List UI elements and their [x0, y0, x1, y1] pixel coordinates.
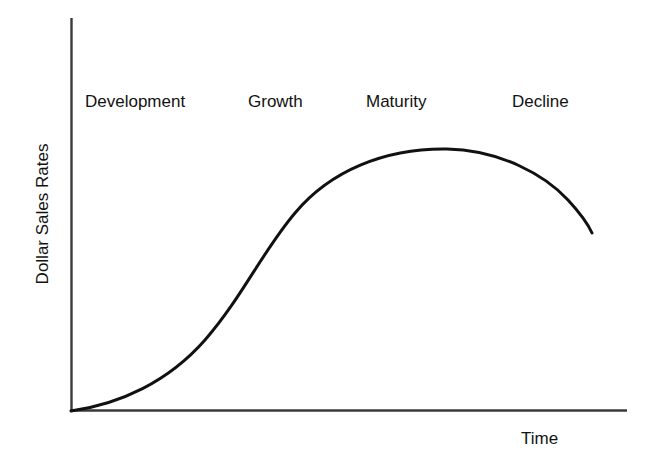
stage-label-maturity: Maturity	[366, 92, 426, 112]
chart-plot-area	[0, 0, 658, 473]
x-axis-label: Time	[521, 428, 558, 450]
product-life-cycle-figure: Development Growth Maturity Decline Doll…	[0, 0, 658, 473]
stage-label-development: Development	[85, 92, 185, 112]
y-axis-label: Dollar Sales Rates	[30, 64, 56, 364]
product-life-cycle-curve	[71, 149, 592, 411]
stage-label-growth: Growth	[248, 92, 303, 112]
stage-label-decline: Decline	[512, 92, 569, 112]
